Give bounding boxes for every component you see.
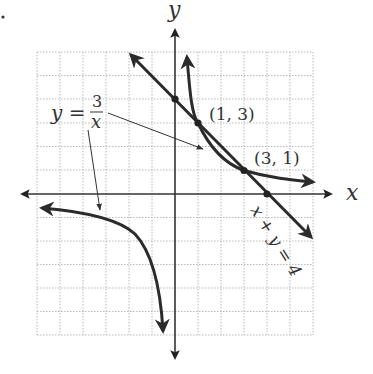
point-1-3 (194, 119, 201, 126)
point-3-1 (240, 167, 247, 174)
point-0-4 (171, 95, 178, 102)
corner-mark (1, 15, 4, 18)
point-4-0 (263, 190, 270, 197)
label-line-x-plus-y-eq-4: x + y = 4 (247, 202, 306, 281)
svg-text:3: 3 (92, 92, 102, 111)
svg-text:x: x (91, 111, 101, 132)
hyperbola-label: y = 3 x (50, 92, 103, 132)
label-point-3-1: (3, 1) (254, 148, 300, 168)
svg-text:y =: y = (50, 101, 85, 125)
graph: y x y = 3 x (1, 3) (3, 1) x + y = 4 (0, 0, 373, 374)
pointer-to-upper-branch (108, 113, 203, 149)
y-axis-label: y (167, 0, 181, 22)
label-point-1-3: (1, 3) (209, 104, 255, 124)
x-axis-label: x (346, 180, 359, 205)
